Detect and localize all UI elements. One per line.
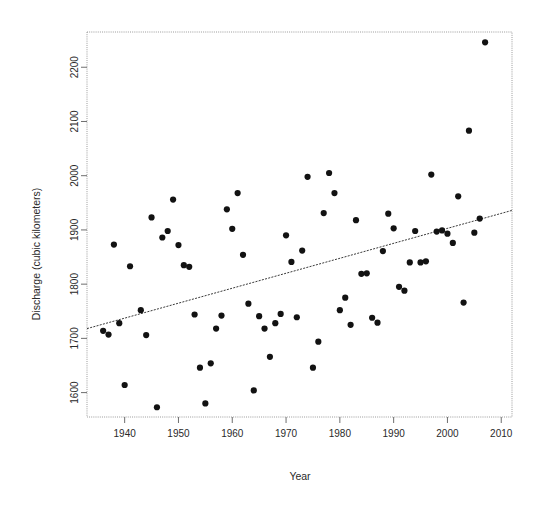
data-point <box>154 404 160 410</box>
data-point <box>385 211 391 217</box>
plot-border <box>87 32 512 417</box>
trendline-group <box>87 210 512 328</box>
data-point <box>197 365 203 371</box>
data-point <box>105 331 111 337</box>
axis-ticks-group <box>81 67 501 423</box>
x-tick-label: 1990 <box>383 428 406 439</box>
y-tick-label: 2100 <box>70 110 81 133</box>
data-point <box>159 234 165 240</box>
data-point <box>417 259 423 265</box>
data-point <box>358 271 364 277</box>
data-point <box>122 382 128 388</box>
data-point <box>224 206 230 212</box>
data-point <box>348 322 354 328</box>
data-point <box>364 270 370 276</box>
data-point <box>283 232 289 238</box>
data-point <box>407 259 413 265</box>
y-tick-label: 1800 <box>70 273 81 296</box>
x-tick-label: 1960 <box>221 428 244 439</box>
data-point <box>218 313 224 319</box>
y-tick-label: 1600 <box>70 381 81 404</box>
data-point <box>100 328 106 334</box>
data-point <box>181 262 187 268</box>
data-point <box>208 360 214 366</box>
data-point <box>412 228 418 234</box>
y-tick-label: 1900 <box>70 218 81 241</box>
data-point <box>396 284 402 290</box>
y-tick-label: 1700 <box>70 327 81 350</box>
data-point <box>240 252 246 258</box>
data-point <box>229 226 235 232</box>
data-point <box>401 288 407 294</box>
data-point <box>272 320 278 326</box>
data-point <box>288 259 294 265</box>
data-point <box>428 172 434 178</box>
data-point <box>304 174 310 180</box>
regression-trendline <box>87 210 512 328</box>
data-point <box>256 313 262 319</box>
data-point <box>477 215 483 221</box>
plot-frame-group <box>87 32 512 417</box>
y-tick-label: 2000 <box>70 164 81 187</box>
axis-tick-labels-group: 1940195019601970198019902000201016001700… <box>70 56 513 439</box>
data-point <box>170 196 176 202</box>
x-tick-label: 1980 <box>329 428 352 439</box>
plot-canvas: 1940195019601970198019902000201016001700… <box>0 0 547 508</box>
data-point <box>294 314 300 320</box>
x-tick-label: 1940 <box>114 428 137 439</box>
data-point <box>310 365 316 371</box>
data-point <box>111 241 117 247</box>
data-point <box>321 210 327 216</box>
data-point <box>466 128 472 134</box>
data-point <box>460 299 466 305</box>
x-tick-label: 1950 <box>167 428 190 439</box>
data-point <box>434 228 440 234</box>
x-tick-label: 2000 <box>436 428 459 439</box>
data-point <box>202 400 208 406</box>
x-tick-label: 1970 <box>275 428 298 439</box>
data-point <box>235 190 241 196</box>
x-tick-label: 2010 <box>490 428 513 439</box>
data-point <box>138 307 144 313</box>
data-point <box>127 263 133 269</box>
data-point <box>116 320 122 326</box>
data-point <box>455 193 461 199</box>
data-point <box>143 332 149 338</box>
data-point <box>423 258 429 264</box>
data-point <box>251 387 257 393</box>
data-point <box>369 315 375 321</box>
data-point <box>148 214 154 220</box>
data-point <box>186 264 192 270</box>
data-point <box>315 339 321 345</box>
data-point <box>191 311 197 317</box>
data-point <box>165 228 171 234</box>
data-point <box>337 307 343 313</box>
data-point <box>326 170 332 176</box>
data-points-group <box>100 39 488 410</box>
data-point <box>482 39 488 45</box>
data-point <box>391 225 397 231</box>
data-point <box>374 320 380 326</box>
data-point <box>439 227 445 233</box>
data-point <box>331 190 337 196</box>
x-axis-title: Year <box>289 470 311 482</box>
data-point <box>261 326 267 332</box>
data-point <box>353 217 359 223</box>
scatter-plot-figure: 1940195019601970198019902000201016001700… <box>0 0 547 508</box>
data-point <box>342 295 348 301</box>
data-point <box>213 326 219 332</box>
data-point <box>471 230 477 236</box>
data-point <box>299 247 305 253</box>
data-point <box>278 311 284 317</box>
y-tick-label: 2200 <box>70 56 81 79</box>
data-point <box>175 242 181 248</box>
data-point <box>450 240 456 246</box>
data-point <box>380 248 386 254</box>
data-point <box>444 231 450 237</box>
data-point <box>267 354 273 360</box>
data-point <box>245 301 251 307</box>
y-axis-title: Discharge (cubic kilometers) <box>30 188 42 320</box>
